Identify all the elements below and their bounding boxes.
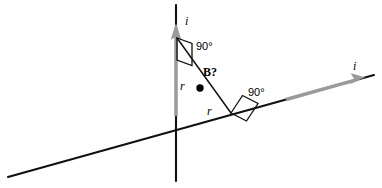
- diagram-canvas: [0, 0, 382, 188]
- field-point-dot: [196, 84, 203, 91]
- vertical-current-arrow: [171, 23, 182, 116]
- diagonal-current-arrow: [286, 73, 365, 99]
- physics-diagram: i i 90° 90° r r B?: [0, 0, 382, 188]
- angle-label-upper: 90°: [196, 41, 213, 52]
- distance-label-upper: r: [180, 80, 185, 92]
- current-label-vertical: i: [185, 15, 188, 27]
- current-label-diagonal: i: [353, 60, 356, 72]
- distance-label-lower: r: [207, 105, 212, 117]
- field-point-label: B?: [203, 66, 217, 78]
- angle-label-lower: 90°: [248, 87, 265, 98]
